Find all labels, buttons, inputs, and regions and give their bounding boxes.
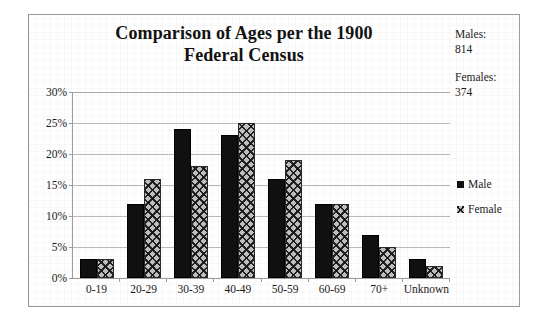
bar-female [97, 259, 114, 278]
legend-item-male: Male [457, 178, 502, 190]
x-tick-label: 30-39 [167, 283, 214, 295]
bar-group [262, 92, 309, 278]
bar-group [356, 92, 403, 278]
bar-group [73, 92, 120, 278]
chart-title-line-1: Comparison of Ages per the 1900 [53, 23, 435, 45]
x-tick-label: 20-29 [120, 283, 167, 295]
y-tick-label: 20% [46, 148, 67, 160]
chart-legend: Male Female [457, 178, 502, 228]
bar-group [214, 92, 261, 278]
legend-label-male: Male [468, 178, 492, 190]
legend-item-female: Female [457, 203, 502, 215]
x-tick-label: 0-19 [73, 283, 120, 295]
legend-swatch-male-icon [457, 181, 464, 188]
bar-group [167, 92, 214, 278]
legend-label-female: Female [468, 203, 502, 215]
bar-female [379, 247, 396, 278]
x-tick-label: 50-59 [262, 283, 309, 295]
bar-male [174, 129, 191, 278]
bar-female [238, 123, 255, 278]
bar-male [268, 179, 285, 278]
bar-female [144, 179, 161, 278]
y-tick-label: 0% [52, 272, 67, 284]
bar-female [426, 266, 443, 278]
x-tick-label: 60-69 [309, 283, 356, 295]
x-tick-label: 70+ [356, 283, 403, 295]
bar-male [409, 259, 426, 278]
y-tick-label: 5% [52, 241, 67, 253]
males-total-annotation: Males: 814 [455, 27, 486, 56]
bars-layer [73, 92, 450, 278]
y-tick-label: 25% [46, 117, 67, 129]
plot-area: 30%25%20%15%10%5%0% [72, 92, 450, 279]
x-tick-label: 40-49 [214, 283, 261, 295]
bar-group [309, 92, 356, 278]
bar-female [332, 204, 349, 278]
bar-male [315, 204, 332, 278]
bar-male [127, 204, 144, 278]
y-tick-label: 10% [46, 210, 67, 222]
bar-group [403, 92, 450, 278]
legend-swatch-female-icon [457, 206, 464, 213]
females-total-annotation: Females: 374 [455, 70, 497, 99]
bar-group [120, 92, 167, 278]
bar-male [80, 259, 97, 278]
chart-frame: Comparison of Ages per the 1900 Federal … [28, 14, 520, 307]
bar-female [285, 160, 302, 278]
y-tick-label: 30% [46, 86, 67, 98]
bar-female [191, 166, 208, 278]
chart-title-line-2: Federal Census [53, 45, 435, 67]
y-tick-label: 15% [46, 179, 67, 191]
bar-male [362, 235, 379, 278]
y-tick-mark [69, 278, 73, 279]
chart-title: Comparison of Ages per the 1900 Federal … [53, 23, 435, 67]
x-axis-labels: 0-1920-2930-3940-4950-5960-6970+Unknown [73, 283, 450, 295]
x-tick-label: Unknown [403, 283, 450, 295]
bar-male [221, 135, 238, 278]
